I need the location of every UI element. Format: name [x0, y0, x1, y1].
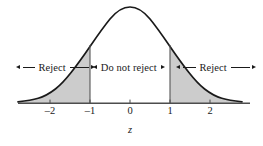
- arrow-left-icon: [93, 65, 97, 69]
- annotation-reject-left: Reject: [16, 62, 95, 73]
- left-rejection-shade: [18, 47, 90, 104]
- leader-rule: [70, 67, 89, 68]
- x-tick-label-zero: 0: [119, 105, 141, 116]
- leader-rule: [23, 67, 35, 68]
- annotation-reject-right: Reject: [176, 62, 256, 73]
- arrow-left-icon: [176, 65, 180, 69]
- annotation-do-not-reject-text: Do not reject: [100, 62, 158, 73]
- right-rejection-shade: [170, 47, 242, 104]
- arrow-right-icon: [161, 65, 165, 69]
- normal-density-curve: [18, 7, 242, 102]
- x-tick-label-negative-one: –1: [79, 105, 101, 116]
- arrow-left-icon: [16, 65, 20, 69]
- x-tick-label-positive-two: 2: [199, 105, 221, 116]
- x-tick-label-negative-two: –2: [39, 105, 61, 116]
- annotation-reject-right-text: Reject: [198, 62, 227, 73]
- arrow-right-icon: [252, 65, 256, 69]
- annotation-reject-left-text: Reject: [37, 62, 66, 73]
- x-tick-label-positive-one: 1: [159, 105, 181, 116]
- leader-rule: [183, 67, 196, 68]
- x-axis-title: z: [119, 124, 141, 135]
- leader-rule: [231, 67, 250, 68]
- normal-distribution-rejection-region-figure: Reject Do not reject Reject –2 –1 0 1 2 …: [0, 0, 263, 146]
- annotation-do-not-reject: Do not reject: [93, 62, 165, 73]
